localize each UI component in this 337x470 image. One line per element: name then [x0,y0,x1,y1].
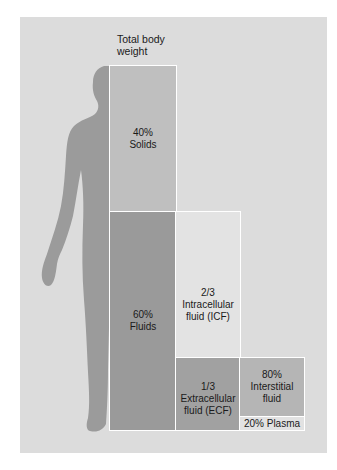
interstitial-label: 80% Interstitial fluid [251,369,294,405]
ecf-label: 1/3 Extracellular fluid (ECF) [180,381,235,417]
ecf-box: 1/3 Extracellular fluid (ECF) [175,357,241,431]
interstitial-fluid-box: 80% Interstitial fluid [239,357,305,417]
icf-label: 2/3 Intracellular fluid (ICF) [182,287,234,323]
solids-label: 40% Solids [129,127,156,151]
icf-box: 2/3 Intracellular fluid (ICF) [175,211,241,359]
plasma-box: 20% Plasma [239,416,305,431]
solids-box: 40% Solids [109,65,177,213]
fluids-box: 60% Fluids [109,211,177,431]
title-total-body-weight: Total body weight [117,33,165,57]
fluids-label: 60% Fluids [130,309,157,333]
plasma-label: 20% Plasma [244,418,300,430]
